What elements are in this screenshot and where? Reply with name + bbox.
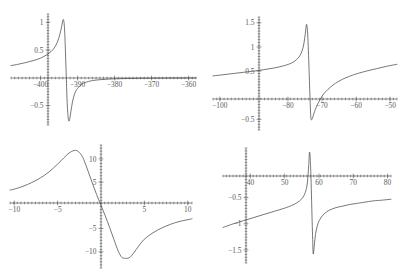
axes-4 [223, 148, 391, 263]
chart-svg-4: 4050607080 −1.5−1−0.5 [201, 137, 403, 273]
y-tick-label: 1 [40, 18, 44, 27]
chart-panel-2: −100−80−70−60−50 −0.50.511.5 [201, 0, 403, 137]
y-tick-label: 1 [251, 43, 255, 52]
y-ticks-3 [99, 145, 104, 268]
chart-panel-3: −10−5510 −10−5510 [0, 137, 201, 273]
x-tick-labels-4: 4050607080 [247, 178, 392, 187]
y-tick-label: 0.5 [34, 46, 44, 55]
x-tick-label: −370 [144, 80, 160, 89]
x-tick-label: −5 [54, 205, 62, 214]
y-tick-label: −0.5 [228, 193, 242, 202]
x-tick-label: 10 [184, 205, 192, 214]
x-tick-label: −100 [212, 101, 228, 110]
y-tick-labels-4: −1.5−1−0.5 [228, 193, 242, 254]
y-tick-label: −10 [85, 247, 97, 256]
chart-svg-2: −100−80−70−60−50 −0.50.511.5 [201, 0, 403, 137]
y-tick-label: −5 [89, 224, 97, 233]
x-tick-label: 5 [142, 205, 146, 214]
y-ticks-4 [244, 148, 249, 263]
x-tick-label: 40 [247, 178, 255, 187]
y-ticks-1 [46, 14, 51, 125]
x-tick-labels-1: −400−390−380−370−360 [33, 80, 197, 89]
x-tick-label: 70 [350, 178, 358, 187]
x-tick-labels-2: −100−80−70−60−50 [212, 101, 396, 110]
y-tick-labels-3: −10−5510 [85, 155, 97, 257]
x-tick-label: −400 [33, 80, 49, 89]
y-ticks-2 [257, 17, 262, 130]
y-tick-label: 1.5 [245, 18, 255, 27]
figure-grid: −400−390−380−370−360 −0.50.51 −100−80−70… [0, 0, 403, 273]
y-tick-label: −1 [234, 219, 242, 228]
y-tick-label: −0.5 [241, 115, 255, 124]
x-tick-label: 60 [315, 178, 323, 187]
chart-panel-1: −400−390−380−370−360 −0.50.51 [0, 0, 201, 137]
chart-svg-3: −10−5510 −10−5510 [0, 137, 201, 273]
y-tick-label: −0.5 [30, 101, 44, 110]
x-tick-label: −50 [384, 101, 396, 110]
x-tick-label: 50 [281, 178, 289, 187]
chart-svg-1: −400−390−380−370−360 −0.50.51 [0, 0, 201, 137]
x-tick-label: −80 [282, 101, 294, 110]
y-tick-labels-1: −0.50.51 [30, 18, 44, 110]
x-tick-label: 80 [384, 178, 392, 187]
x-tick-label: −380 [107, 80, 123, 89]
chart-panel-4: 4050607080 −1.5−1−0.5 [201, 137, 403, 273]
y-tick-label: 10 [89, 155, 97, 164]
x-tick-label: −360 [181, 80, 197, 89]
dispersion-curve-4 [223, 152, 391, 254]
y-tick-label: −1.5 [228, 246, 242, 255]
x-tick-label: −60 [350, 101, 362, 110]
x-tick-label: −10 [9, 205, 21, 214]
x-tick-label: −70 [316, 101, 328, 110]
dispersion-curve-2 [213, 24, 397, 120]
